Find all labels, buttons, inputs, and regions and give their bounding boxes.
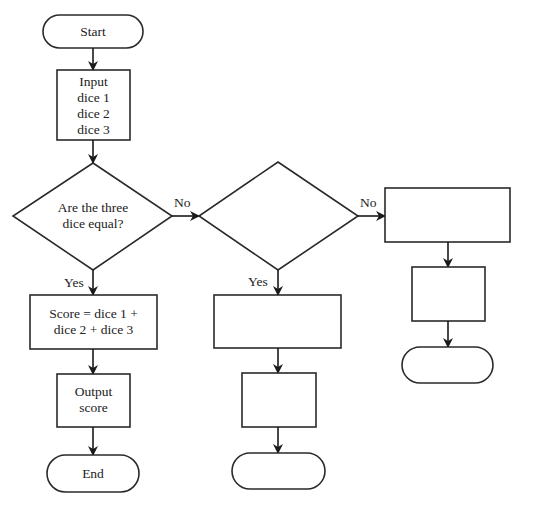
input-line-3: dice 2: [77, 106, 110, 121]
score-box: Score = dice 1 + dice 2 + dice 3: [30, 295, 157, 349]
decision1-line-2: dice equal?: [62, 216, 123, 231]
right-terminator: [402, 347, 493, 383]
middle-terminator: [232, 453, 325, 489]
score-line-2: dice 2 + dice 3: [54, 322, 134, 337]
end-label: End: [82, 466, 104, 481]
decision1-line-1: Are the three: [58, 200, 128, 215]
output-line-2: score: [79, 400, 107, 415]
right-process-box-2: [412, 267, 485, 321]
input-line-4: dice 3: [77, 122, 110, 137]
input-box: Input dice 1 dice 2 dice 3: [57, 70, 130, 140]
middle-process-box-1: [214, 295, 341, 348]
decision-2: [199, 162, 358, 270]
middle-process-box-2: [242, 373, 316, 427]
decision2-no-label: No: [360, 195, 377, 210]
start-terminator: Start: [43, 15, 143, 48]
decision-dice-equal: Are the three dice equal?: [13, 163, 172, 270]
flowchart: Start Input dice 1 dice 2 dice 3 Are the…: [0, 0, 534, 523]
decision1-yes-label: Yes: [64, 275, 84, 290]
decision1-no-label: No: [174, 195, 191, 210]
output-line-1: Output: [75, 384, 113, 399]
end-terminator: End: [47, 455, 139, 492]
start-label: Start: [80, 24, 106, 39]
input-line-1: Input: [79, 74, 108, 89]
decision2-yes-label: Yes: [248, 274, 268, 289]
output-box: Output score: [57, 374, 130, 427]
right-process-box-1: [385, 188, 510, 242]
input-line-2: dice 1: [77, 90, 110, 105]
score-line-1: Score = dice 1 +: [49, 306, 138, 321]
